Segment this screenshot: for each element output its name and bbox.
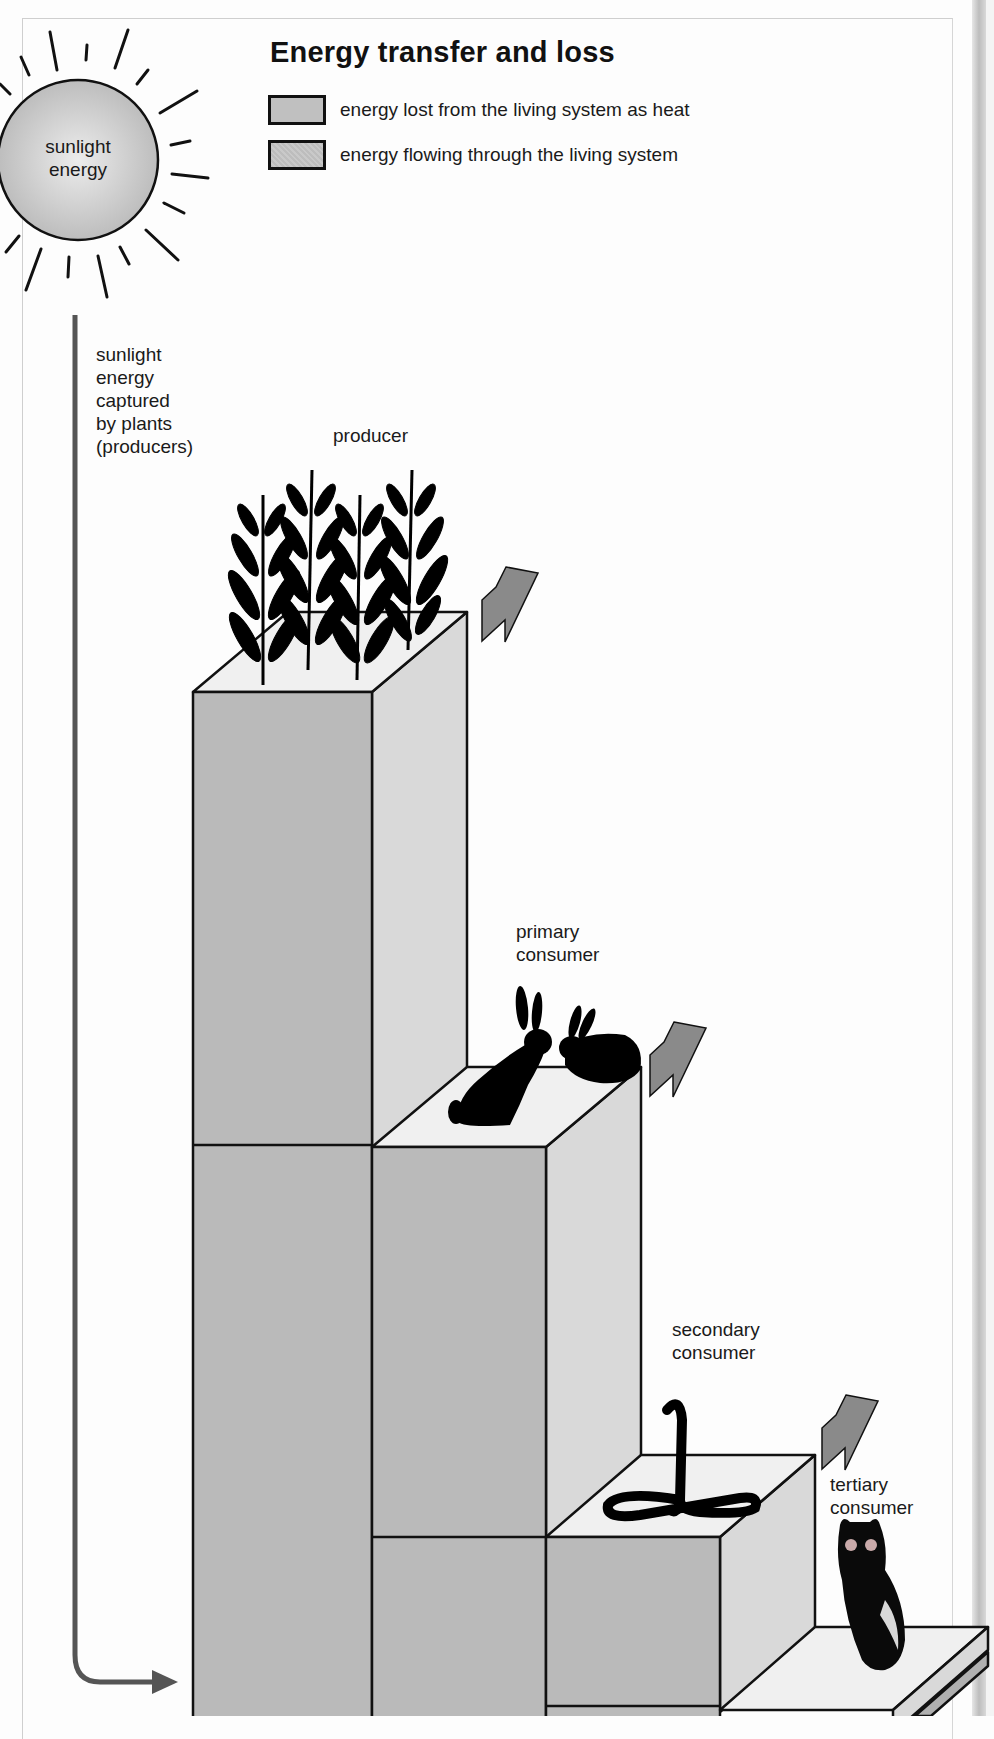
legend-swatch-solid [268,95,326,125]
flow-label-line: (producers) [96,435,193,458]
legend-swatch-hatched [268,140,326,170]
legend-label: energy flowing through the living system [340,144,678,166]
legend-item-energy-flow: energy flowing through the living system [268,140,678,170]
flow-label-line: sunlight [96,343,193,366]
page-title: Energy transfer and loss [270,36,615,69]
tertiary-consumer-label: tertiary consumer [830,1473,913,1519]
heat-arrow-icon [822,1395,878,1470]
level-label-line: consumer [830,1496,913,1519]
sun-label-line: energy [18,158,138,181]
producer-label: producer [333,424,408,447]
primary-consumer-label: primary consumer [516,920,599,966]
flow-label-line: captured [96,389,193,412]
legend-item-heat-loss: energy lost from the living system as he… [268,95,690,125]
flow-label-line: energy [96,366,193,389]
level-label-line: consumer [672,1341,760,1364]
sun-label-line: sunlight [18,135,138,158]
flow-label-line: by plants [96,412,193,435]
legend-label: energy lost from the living system as he… [340,99,690,121]
heat-arrow-icon [482,567,538,642]
sun-label: sunlight energy [18,135,138,181]
level-label-line: producer [333,424,408,447]
level-label-line: primary [516,920,599,943]
secondary-consumer-label: secondary consumer [672,1318,760,1364]
arrowhead-icon [152,1670,178,1694]
level-label-line: consumer [516,943,599,966]
flow-label: sunlight energy captured by plants (prod… [96,343,193,458]
level-label-line: tertiary [830,1473,913,1496]
level-label-line: secondary [672,1318,760,1341]
heat-arrow-icon [650,1022,706,1097]
energy-flow-arrow [75,315,160,1682]
